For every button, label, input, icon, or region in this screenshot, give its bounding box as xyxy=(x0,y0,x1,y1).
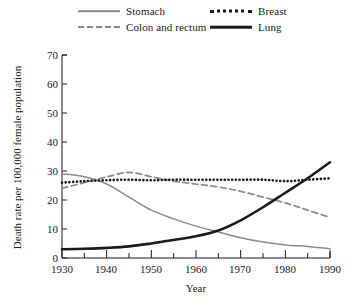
x-axis-ticks xyxy=(62,250,330,258)
y-axis-title: Death rate per 100,000 female population xyxy=(12,53,23,263)
y-tick-label-30: 30 xyxy=(34,166,58,177)
x-tick-label-1960: 1960 xyxy=(176,264,216,275)
x-tick-label-1930: 1930 xyxy=(42,264,82,275)
axis-frame xyxy=(62,55,330,258)
x-tick-label-1950: 1950 xyxy=(131,264,171,275)
y-tick-label-10: 10 xyxy=(34,224,58,235)
chart-plot-area: 70 60 50 40 30 20 10 0 1930 1940 1950 19… xyxy=(0,0,352,303)
y-axis-ticks xyxy=(62,55,67,258)
x-tick-label-1940: 1940 xyxy=(86,264,126,275)
x-tick-label-1990: 1990 xyxy=(310,264,350,275)
y-tick-label-20: 20 xyxy=(34,195,58,206)
y-tick-label-40: 40 xyxy=(34,137,58,148)
x-axis-title: Year xyxy=(62,283,330,294)
chart-figure: Stomach Breast Colon and rectum Lung 70 … xyxy=(0,0,352,303)
y-tick-label-70: 70 xyxy=(34,50,58,61)
x-tick-label-1980: 1980 xyxy=(265,264,305,275)
y-tick-label-60: 60 xyxy=(34,79,58,90)
series-line-lung xyxy=(62,162,330,249)
x-tick-label-1970: 1970 xyxy=(220,264,260,275)
y-tick-label-50: 50 xyxy=(34,108,58,119)
